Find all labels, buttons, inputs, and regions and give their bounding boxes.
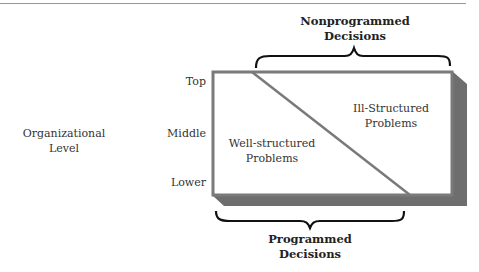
programmed-label: Programmed Decisions (260, 232, 360, 262)
axis-title: Organizational Level (16, 126, 112, 156)
nonprogrammed-brace-icon (256, 48, 450, 68)
ill-structured-label: Ill-Structured Problems (346, 101, 436, 131)
level-middle: Middle (150, 126, 206, 141)
well-structured-label: Well-structured Problems (222, 136, 322, 166)
programmed-brace-icon (216, 211, 404, 228)
level-lower: Lower (150, 175, 206, 190)
nonprogrammed-label: Nonprogrammed Decisions (300, 14, 410, 44)
level-top: Top (160, 74, 206, 89)
